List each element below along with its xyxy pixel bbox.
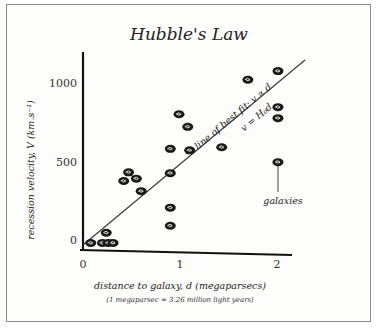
x-axis-note: (1 megaparsec = 3.26 million light years… <box>106 296 254 304</box>
galaxy-icon <box>108 239 119 247</box>
galaxy-icon <box>165 169 176 177</box>
galaxy-icon <box>272 114 283 122</box>
y-tick-0: 0 <box>70 234 77 247</box>
galaxy-icon <box>118 177 129 185</box>
galaxy-icon <box>131 175 142 183</box>
galaxy-icon <box>85 239 96 247</box>
y-tick-500: 500 <box>56 156 77 169</box>
galaxy-icon <box>136 187 147 195</box>
galaxy-icon <box>182 123 193 131</box>
chart-title: Hubble's Law <box>129 24 248 44</box>
galaxy-icon <box>165 204 176 212</box>
y-axis-label: recession velocity, V (km.s⁻¹) <box>25 100 36 240</box>
galaxy-icon <box>123 168 134 176</box>
hubble-chart: Hubble's Law 1000 500 0 0 1 2 distance t… <box>0 0 379 328</box>
galaxy-icon <box>101 229 112 237</box>
galaxy-icon <box>242 76 253 84</box>
galaxy-icon <box>272 158 283 166</box>
galaxy-icon <box>165 145 176 153</box>
x-axis <box>80 250 292 255</box>
galaxy-icon <box>272 67 283 75</box>
x-tick-2: 2 <box>274 258 281 271</box>
galaxy-icon <box>216 143 227 151</box>
galaxy-icon <box>165 222 176 230</box>
x-tick-0: 0 <box>80 258 87 271</box>
galaxy-icon <box>184 146 195 154</box>
x-axis-label: distance to galaxy, d (megaparsecs) <box>94 280 266 291</box>
galaxy-icon <box>272 103 283 111</box>
galaxy-icon <box>174 110 185 118</box>
y-tick-1000: 1000 <box>49 77 77 90</box>
galaxies-label: galaxies <box>263 195 302 206</box>
x-tick-1: 1 <box>177 258 184 271</box>
